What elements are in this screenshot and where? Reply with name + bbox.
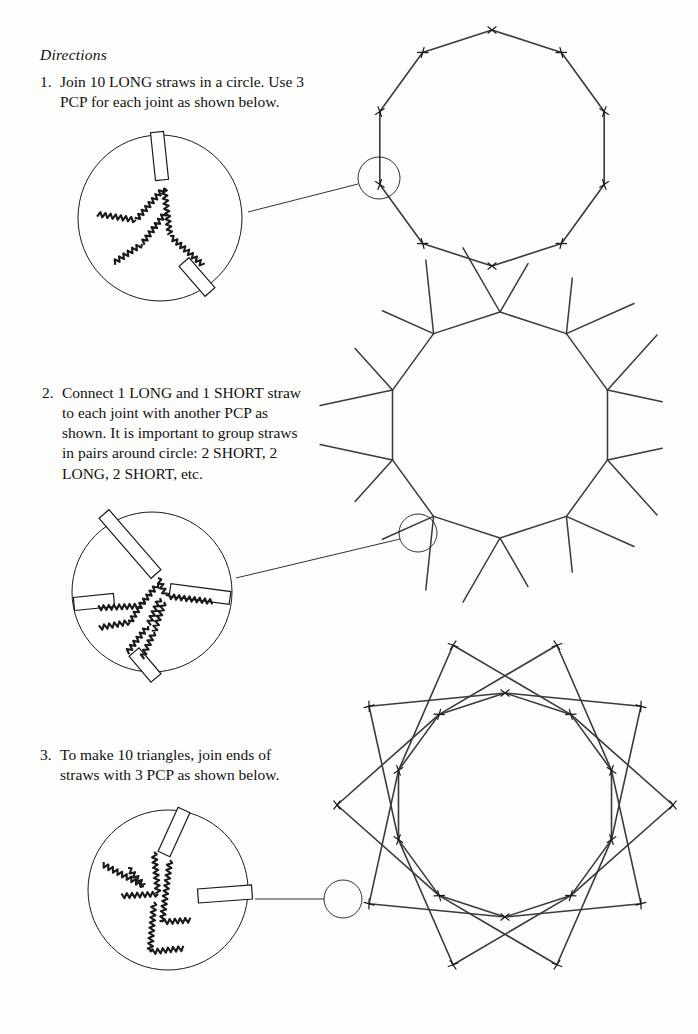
straw-ray xyxy=(426,516,434,590)
straw-side xyxy=(500,312,566,334)
straw-ray xyxy=(566,516,572,572)
straw-triangle-leg xyxy=(557,840,612,965)
straw-side xyxy=(380,185,423,244)
straw-ray xyxy=(463,248,500,312)
step-number: 2. xyxy=(42,383,62,403)
straw-triangle-leg xyxy=(557,645,612,770)
straw-side xyxy=(561,53,604,112)
straw-side xyxy=(434,312,500,334)
step-text: To make 10 triangles, join ends of straw… xyxy=(60,745,310,785)
straw-ray xyxy=(355,460,392,502)
straw-ray xyxy=(355,349,392,391)
straw-side xyxy=(423,244,492,267)
straw-side xyxy=(566,334,607,391)
step-text: Connect 1 LONG and 1 SHORT straw to each… xyxy=(62,383,312,484)
page-title: Directions xyxy=(40,46,107,64)
straw-side xyxy=(492,244,561,267)
straw-side xyxy=(561,185,604,244)
straw-ray xyxy=(463,538,500,602)
straw-ray xyxy=(608,335,658,390)
straw-triangle-leg xyxy=(399,840,454,965)
straw-ray xyxy=(566,516,634,546)
straw-side xyxy=(492,30,561,53)
straw-ray xyxy=(608,390,663,402)
instruction-step-3: 3. To make 10 triangles, join ends of st… xyxy=(40,745,310,785)
joint-marker-icon xyxy=(554,641,560,650)
straw-side xyxy=(434,516,500,538)
instruction-step-2: 2. Connect 1 LONG and 1 SHORT straw to e… xyxy=(42,383,312,484)
step-number: 1. xyxy=(40,72,60,92)
joint-marker-icon xyxy=(450,960,456,969)
straw-side xyxy=(423,30,492,53)
straw-side xyxy=(380,53,423,112)
instruction-step-1: 1. Join 10 LONG straws in a circle. Use … xyxy=(40,72,310,112)
straw-triangle-leg xyxy=(399,645,454,770)
straw-ray xyxy=(608,460,658,515)
step-text: Join 10 LONG straws in a circle. Use 3 P… xyxy=(60,72,310,112)
step-number: 3. xyxy=(40,745,60,765)
figure-ten-point-star[interactable] xyxy=(334,641,676,969)
straw-ray xyxy=(608,448,663,460)
figure-decagon[interactable] xyxy=(375,27,608,269)
straw-ray xyxy=(500,264,528,313)
straw-side xyxy=(566,460,607,517)
page-canvas: Directions 1. Join 10 LONG straws in a c… xyxy=(0,0,698,1034)
figure-spoked-decagon[interactable] xyxy=(320,248,662,602)
straw-side xyxy=(500,516,566,538)
straw-ray xyxy=(426,260,434,334)
straw-ray xyxy=(500,538,528,587)
straw-ray xyxy=(382,516,433,539)
straw-side xyxy=(393,334,434,391)
straw-ray xyxy=(566,304,634,334)
straw-side xyxy=(393,460,434,517)
straw-ray xyxy=(566,278,572,334)
straw-ray xyxy=(382,311,433,334)
